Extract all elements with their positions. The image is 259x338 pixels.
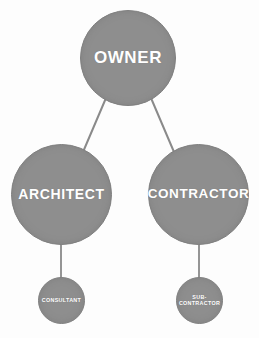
edge-owner-contractor — [151, 98, 174, 152]
node-owner-label: OWNER — [91, 49, 165, 67]
node-owner[interactable]: OWNER — [80, 10, 176, 106]
node-architect[interactable]: ARCHITECT — [11, 144, 112, 245]
node-contractor-label: CONTRACTOR — [145, 187, 253, 202]
node-consultant-label: CONSULTANT — [39, 298, 84, 304]
node-contractor[interactable]: CONTRACTOR — [148, 144, 249, 245]
node-subcontractor-label: SUB- CONTRACTOR — [176, 295, 223, 307]
org-chart-diagram: OWNER ARCHITECT CONTRACTOR CONSULTANT SU… — [0, 0, 259, 338]
node-consultant[interactable]: CONSULTANT — [38, 277, 85, 324]
node-architect-label: ARCHITECT — [15, 187, 107, 202]
node-subcontractor[interactable]: SUB- CONTRACTOR — [176, 277, 223, 324]
edge-owner-architect — [83, 98, 106, 152]
node-subcontractor-label-line2: CONTRACTOR — [179, 300, 220, 306]
